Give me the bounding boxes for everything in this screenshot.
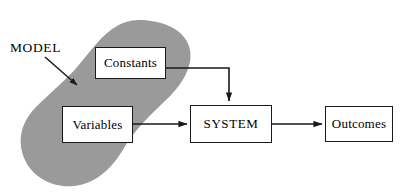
diagram-canvas: MODEL Constants Variables SYSTEM Outcome…	[0, 0, 407, 193]
node-system[interactable]: SYSTEM	[190, 105, 272, 143]
node-variables-label: Variables	[72, 117, 122, 133]
model-region-label: MODEL	[10, 40, 61, 56]
node-system-label: SYSTEM	[204, 116, 259, 132]
node-constants[interactable]: Constants	[95, 47, 166, 79]
diagram-graphics-layer	[0, 0, 407, 193]
model-pointer-arrow	[45, 57, 77, 85]
node-outcomes[interactable]: Outcomes	[325, 106, 393, 142]
node-outcomes-label: Outcomes	[332, 116, 386, 132]
node-constants-label: Constants	[104, 55, 157, 71]
node-variables[interactable]: Variables	[62, 106, 133, 143]
